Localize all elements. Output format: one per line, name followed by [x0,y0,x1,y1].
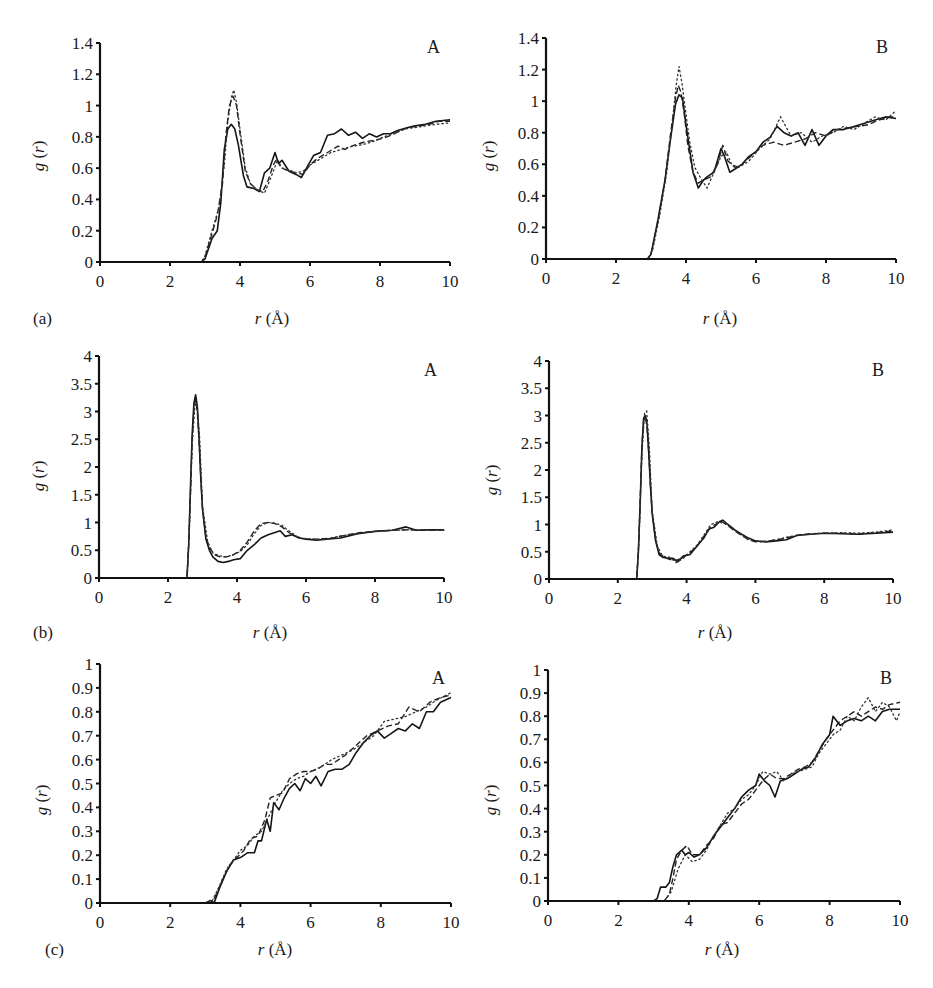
series-dashed-line [100,96,450,262]
y-axis-label: g (r) [32,785,51,816]
x-tick-label: 10 [888,269,905,288]
x-tick-label: 4 [682,589,691,608]
x-tick-label: 6 [752,269,761,288]
x-tick-label: 2 [612,269,621,288]
x-tick-label: 6 [755,911,764,930]
y-tick-label: 0.3 [520,823,541,842]
x-tick-label: 8 [376,272,385,291]
series-dashed-line [546,85,896,259]
y-tick-label: 0.6 [518,155,539,174]
x-tick-label: 6 [306,913,315,932]
y-tick-label: 0 [84,569,93,588]
y-tick-label: 0.4 [518,187,540,206]
x-tick-label: 8 [820,589,829,608]
y-tick-label: 1.5 [71,486,92,505]
y-axis-label: g (r) [479,141,498,172]
y-tick-label: 1 [85,97,94,116]
y-tick-label: 1 [534,516,543,535]
y-tick-label: 1 [85,655,94,674]
x-tick-label: 4 [233,588,242,607]
x-tick-label: 6 [751,589,760,608]
y-tick-label: 0.6 [520,753,541,772]
panel-a-A: 00.20.40.60.811.21.40246810r (Å)g (r)A(a… [29,34,459,328]
y-tick-label: 1.2 [518,61,539,80]
x-tick-label: 10 [892,911,909,930]
series-solid-line [100,698,451,904]
y-tick-label: 0.2 [72,222,93,241]
y-axis-label: g (r) [482,465,501,496]
y-tick-label: 0.1 [520,869,541,888]
x-tick-label: 10 [442,272,459,291]
y-tick-label: 3 [84,403,93,422]
series-dashed-line [100,695,451,903]
y-tick-label: 0.2 [72,846,93,865]
row-label: (a) [33,309,52,328]
panel-tag: A [432,668,445,688]
panel-tag: A [424,360,437,380]
y-tick-label: 3.5 [521,379,542,398]
x-tick-label: 10 [443,913,460,932]
x-tick-label: 2 [166,913,175,932]
x-tick-label: 10 [436,588,453,607]
panel-b-A: 00.511.522.533.540246810r (Å)g (r)A(b) [29,347,453,642]
y-tick-label: 1 [531,92,540,111]
x-tick-label: 2 [164,588,173,607]
series-dashed-line [549,417,893,579]
y-tick-label: 0.2 [520,846,541,865]
y-tick-label: 0.6 [72,751,93,770]
x-tick-label: 0 [545,589,554,608]
series-solid-line [548,709,900,901]
series-dotted-line [549,411,893,579]
y-tick-label: 0.5 [521,543,542,562]
series-dotted-line [548,698,900,901]
y-tick-label: 2 [534,461,543,480]
series-dotted-line [99,403,444,578]
x-tick-label: 0 [95,588,104,607]
y-tick-label: 1.4 [72,34,94,53]
x-tick-label: 8 [371,588,380,607]
x-tick-label: 0 [96,913,105,932]
y-tick-label: 0 [534,570,543,589]
rdf-figure: 00.20.40.60.811.21.40246810r (Å)g (r)A(a… [0,0,933,988]
y-tick-label: 0.3 [72,822,93,841]
x-tick-label: 0 [96,272,105,291]
panel-c-B: 00.10.20.30.40.50.60.70.80.910246810r (Å… [481,661,909,959]
panel-c-A: 00.10.20.30.40.50.60.70.80.910246810r (Å… [32,655,460,959]
series-solid-line [100,120,450,262]
y-tick-label: 0.4 [72,190,94,209]
series-dotted-line [100,90,450,262]
y-tick-label: 1 [533,661,542,680]
y-tick-label: 2.5 [521,434,542,453]
y-tick-label: 0.6 [72,159,93,178]
y-tick-label: 0.4 [72,798,94,817]
y-axis-label: g (r) [29,141,48,172]
y-tick-label: 0 [85,253,94,272]
y-tick-label: 3.5 [71,375,92,394]
y-tick-label: 3 [534,407,543,426]
x-axis-label: r (Å) [698,623,732,642]
y-tick-label: 0.9 [520,684,541,703]
x-axis-label: r (Å) [255,309,289,328]
panel-tag: B [872,360,884,380]
y-tick-label: 0.8 [518,124,539,143]
y-tick-label: 0 [85,894,94,913]
series-solid-line [546,95,896,259]
x-tick-label: 6 [306,272,315,291]
series-dashed-line [99,400,444,578]
panel-a-B: 00.20.40.60.811.21.40246810r (Å)g (r)B [479,29,905,328]
panel-tag: B [880,668,892,688]
x-tick-label: 2 [614,589,623,608]
x-axis-label: r (Å) [705,940,739,959]
x-tick-label: 8 [377,913,386,932]
y-tick-label: 1.4 [518,29,540,48]
y-tick-label: 1.5 [521,488,542,507]
x-tick-label: 8 [822,269,831,288]
x-axis-label: r (Å) [253,623,287,642]
y-tick-label: 0.7 [72,727,94,746]
y-tick-label: 0.5 [520,777,541,796]
x-tick-label: 10 [885,589,902,608]
series-solid-line [99,395,444,578]
y-tick-label: 1 [84,514,93,533]
y-tick-label: 0.8 [520,707,541,726]
y-tick-label: 2 [84,458,93,477]
